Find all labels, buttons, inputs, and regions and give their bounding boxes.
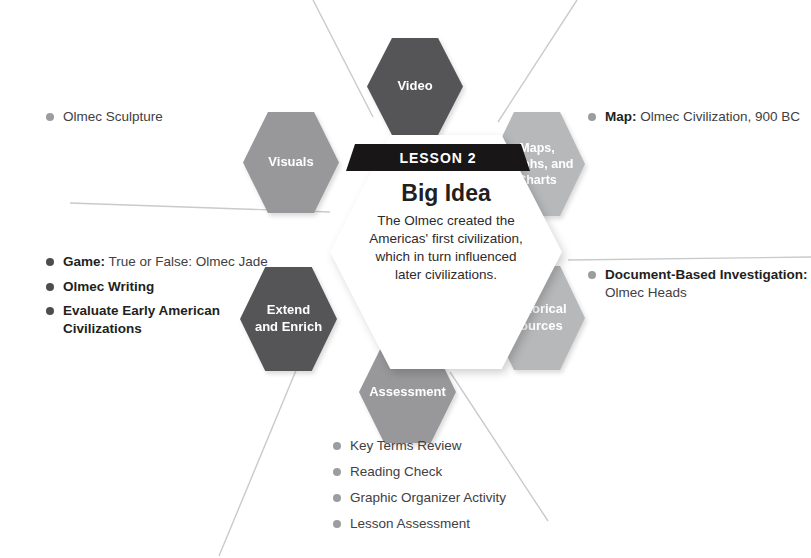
list-item-label: Reading Check [350, 463, 442, 481]
list-item-label: Olmec Sculpture [63, 108, 163, 126]
lesson-badge-label: LESSON 2 [399, 150, 476, 166]
big-idea-text-line2: Americas' first civilization, [330, 230, 562, 248]
bullet-icon [333, 468, 341, 476]
list-item-label-rest: Olmec Civilization, 900 BC [637, 109, 801, 124]
hex-video: Video [367, 38, 463, 135]
hex-extend-label-line1: Extend [267, 302, 310, 319]
bullet-icon [588, 113, 596, 121]
list-item-label: Lesson Assessment [350, 515, 470, 533]
list-item-reading-check: Reading Check [333, 463, 442, 481]
big-idea-text-line4: later civilizations. [330, 266, 562, 284]
list-item-label: Game: True or False: Olmec Jade [63, 253, 268, 271]
bullet-icon [46, 258, 54, 266]
bullet-icon [333, 494, 341, 502]
bullet-icon [46, 283, 54, 291]
bullet-icon [588, 271, 596, 279]
list-item-map-olmec-civilization: Map: Olmec Civilization, 900 BC [588, 108, 800, 126]
hex-video-label: Video [397, 78, 432, 95]
list-item-label-bold: Map: [605, 109, 637, 124]
hex-visuals: Visuals [243, 112, 339, 213]
lesson-hex-diagram: Video Visuals Maps, Graphs, and Charts E… [0, 0, 811, 558]
list-item-key-terms-review: Key Terms Review [333, 437, 462, 455]
hex-extend-label-line2: and Enrich [255, 319, 322, 336]
bullet-icon [46, 307, 54, 315]
spoke-upper-right [498, 0, 577, 122]
list-item-evaluate-early-american-civilizations: Evaluate Early American Civilizations [46, 302, 242, 338]
list-item-label-rest: True or False: Olmec Jade [105, 254, 268, 269]
list-item-label-bold: Document-Based Investigation: [605, 266, 808, 284]
spoke-lower-left [219, 356, 302, 556]
big-idea-title: Big Idea [330, 180, 562, 207]
list-item-graphic-organizer-activity: Graphic Organizer Activity [333, 489, 506, 507]
list-item-label: Graphic Organizer Activity [350, 489, 506, 507]
hex-extend-enrich: Extend and Enrich [240, 267, 337, 371]
bullet-icon [333, 520, 341, 528]
list-item-label-line2: Olmec Heads [605, 284, 808, 302]
list-item-label: Key Terms Review [350, 437, 462, 455]
spoke-upper-left [313, 0, 373, 117]
list-item-label: Olmec Writing [63, 278, 154, 296]
list-item-label-bold: Game: [63, 254, 105, 269]
bullet-icon [46, 113, 54, 121]
list-item-label: Document-Based Investigation: Olmec Head… [605, 266, 808, 302]
list-item-label: Map: Olmec Civilization, 900 BC [605, 108, 800, 126]
big-idea-text-line3: which in turn influenced [330, 248, 562, 266]
list-item-olmec-sculpture: Olmec Sculpture [46, 108, 163, 126]
hex-visuals-label: Visuals [268, 154, 313, 171]
bullet-icon [333, 442, 341, 450]
list-item-olmec-writing: Olmec Writing [46, 278, 154, 296]
list-item-label: Evaluate Early American Civilizations [63, 302, 242, 338]
list-item-game-true-or-false: Game: True or False: Olmec Jade [46, 253, 268, 271]
lesson-badge: LESSON 2 [346, 144, 530, 171]
list-item-lesson-assessment: Lesson Assessment [333, 515, 470, 533]
hex-assessment-label: Assessment [369, 384, 446, 401]
big-idea-text-line1: The Olmec created the [330, 212, 562, 230]
list-item-document-based-investigation: Document-Based Investigation: Olmec Head… [588, 266, 808, 302]
big-idea-text: The Olmec created the Americas' first ci… [330, 212, 562, 284]
spoke-right [568, 257, 811, 260]
